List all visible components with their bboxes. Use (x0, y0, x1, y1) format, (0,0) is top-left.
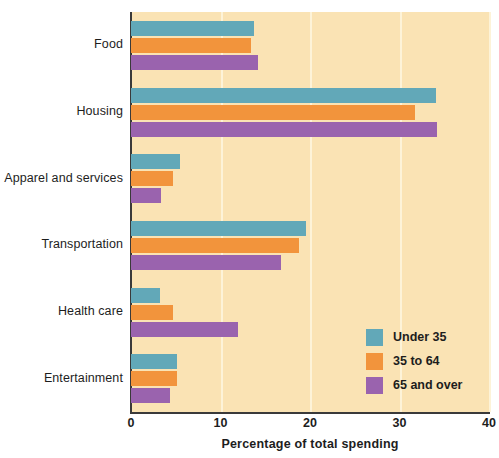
category-label: Transportation (0, 237, 123, 251)
x-tick-label: 20 (303, 416, 317, 430)
bar (131, 122, 437, 137)
legend-label-under-35: Under 35 (393, 330, 447, 344)
category-label: Apparel and services (0, 171, 123, 185)
gridline (221, 12, 223, 412)
bar (131, 21, 254, 36)
legend-label-35-to-64: 35 to 64 (393, 354, 440, 368)
legend-item-35-to-64: 35 to 64 (366, 349, 488, 373)
bar (131, 305, 173, 320)
legend-label-65-and-over: 65 and over (393, 378, 462, 392)
gridline (489, 12, 491, 412)
bar (131, 105, 415, 120)
gridline (310, 12, 312, 412)
legend-swatch-icon-under-35 (366, 329, 383, 346)
bar (131, 354, 177, 369)
x-axis-line (130, 412, 490, 414)
bar (131, 188, 161, 203)
bar (131, 171, 173, 186)
legend-swatch-icon-65-and-over (366, 377, 383, 394)
legend-swatch-icon-35-to-64 (366, 353, 383, 370)
bar (131, 238, 299, 253)
x-tick-label: 0 (128, 416, 135, 430)
bar (131, 88, 436, 103)
bar (131, 221, 306, 236)
bar (131, 371, 177, 386)
x-tick-label: 10 (214, 416, 228, 430)
bar (131, 38, 251, 53)
x-tick-label: 30 (393, 416, 407, 430)
bar (131, 255, 281, 270)
bar (131, 388, 170, 403)
legend: Under 35 35 to 64 65 and over (366, 325, 488, 397)
bar (131, 55, 258, 70)
x-axis-title: Percentage of total spending (131, 437, 489, 451)
category-label: Entertainment (0, 371, 123, 385)
bar (131, 322, 238, 337)
category-label: Housing (0, 104, 123, 118)
category-label: Health care (0, 304, 123, 318)
x-tick-label: 40 (482, 416, 496, 430)
bar-chart: FoodHousingApparel and servicesTransport… (0, 0, 499, 458)
legend-item-under-35: Under 35 (366, 325, 488, 349)
bar (131, 288, 160, 303)
bar (131, 154, 180, 169)
category-label: Food (0, 37, 123, 51)
legend-item-65-and-over: 65 and over (366, 373, 488, 397)
